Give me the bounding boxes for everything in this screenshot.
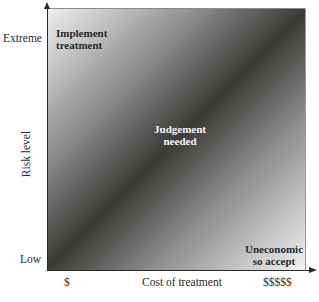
region-judgement-needed: Judgement needed bbox=[150, 123, 210, 147]
region-line: so accept bbox=[243, 255, 305, 267]
region-implement-treatment: Implement treatment bbox=[56, 27, 107, 51]
y-axis-title: Risk level bbox=[20, 124, 32, 184]
x-axis-arrow-icon bbox=[309, 267, 317, 273]
x-axis-high-label: $$$$$ bbox=[263, 276, 292, 288]
region-line: treatment bbox=[56, 39, 107, 51]
x-axis-title: Cost of treatment bbox=[142, 276, 222, 288]
y-axis-low-label: Low bbox=[20, 253, 41, 265]
region-line: needed bbox=[150, 135, 210, 147]
region-uneconomic-accept: Uneconomic so accept bbox=[243, 243, 305, 267]
region-line: Uneconomic bbox=[243, 243, 305, 255]
x-axis-low-label: $ bbox=[64, 276, 70, 288]
region-line: Implement bbox=[56, 27, 107, 39]
region-line: Judgement bbox=[150, 123, 210, 135]
x-axis-line bbox=[47, 270, 311, 271]
y-axis-arrow-icon bbox=[44, 2, 50, 9]
y-axis-high-label: Extreme bbox=[3, 32, 42, 44]
y-axis-line bbox=[47, 6, 48, 271]
